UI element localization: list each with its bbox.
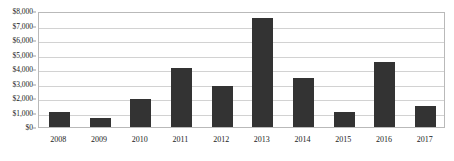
y-tick-label: $0 bbox=[26, 124, 34, 132]
gridline bbox=[39, 28, 444, 29]
y-tick-mark bbox=[33, 84, 36, 85]
y-tick-mark bbox=[33, 55, 36, 56]
plot-area bbox=[38, 12, 445, 128]
x-tick-label: 2017 bbox=[417, 135, 433, 145]
y-tick-label: $4,000 bbox=[12, 66, 33, 74]
x-tick-label: 2013 bbox=[254, 135, 270, 145]
bar-2016 bbox=[374, 62, 395, 127]
bar-2017 bbox=[415, 106, 436, 127]
y-tick-label: $6,000 bbox=[12, 37, 33, 45]
bar-2012 bbox=[212, 86, 233, 127]
x-tick-label: 2015 bbox=[335, 135, 351, 145]
y-tick-mark bbox=[33, 26, 36, 27]
bar-2014 bbox=[293, 78, 314, 127]
x-tick-label: 2014 bbox=[295, 135, 311, 145]
y-tick-mark bbox=[33, 70, 36, 71]
bar-2015 bbox=[334, 112, 355, 127]
y-tick-label: $3,000 bbox=[12, 81, 33, 89]
gridline bbox=[39, 42, 444, 43]
y-tick-label: $2,000 bbox=[12, 95, 33, 103]
bar-2011 bbox=[171, 68, 192, 127]
bar-chart-figure: $0$1,000$2,000$3,000$4,000$5,000$6,000$7… bbox=[0, 0, 454, 161]
bar-2013 bbox=[252, 18, 273, 127]
y-tick-label: $5,000 bbox=[12, 52, 33, 60]
y-tick-mark bbox=[33, 41, 36, 42]
x-tick-label: 2012 bbox=[213, 135, 229, 145]
y-tick-label: $8,000 bbox=[12, 8, 33, 16]
y-tick-label: $7,000 bbox=[12, 23, 33, 31]
x-tick-label: 2009 bbox=[91, 135, 107, 145]
y-tick-label: $1,000 bbox=[12, 110, 33, 118]
chart-title bbox=[60, 0, 400, 2]
bar-2008 bbox=[49, 112, 70, 127]
gridline bbox=[39, 57, 444, 58]
x-tick-label: 2016 bbox=[376, 135, 392, 145]
bar-2009 bbox=[90, 118, 111, 127]
x-tick-label: 2008 bbox=[50, 135, 66, 145]
y-tick-mark bbox=[33, 113, 36, 114]
y-tick-mark bbox=[33, 12, 36, 13]
bar-2010 bbox=[130, 99, 151, 127]
x-tick-label: 2011 bbox=[173, 135, 189, 145]
x-axis: 2008200920102011201220132014201520162017 bbox=[38, 132, 445, 148]
y-axis: $0$1,000$2,000$3,000$4,000$5,000$6,000$7… bbox=[0, 12, 36, 128]
x-tick-label: 2010 bbox=[132, 135, 148, 145]
y-tick-mark bbox=[33, 99, 36, 100]
y-tick-mark bbox=[33, 128, 36, 129]
